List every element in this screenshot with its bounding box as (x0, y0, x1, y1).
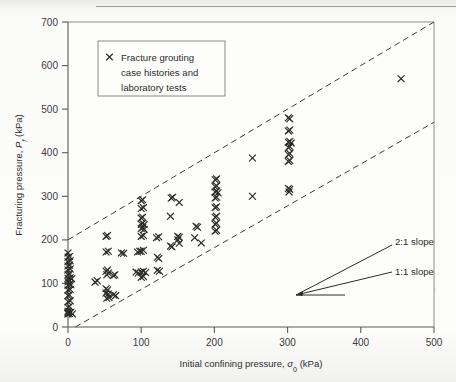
slope-1-1-label: 1:1 slope (395, 266, 434, 277)
y-axis-title: Fracturing pressure, Pf (kPa) (13, 114, 29, 235)
x-axis-title-part2: (kPa) (297, 358, 322, 369)
y-tick-label: 500 (41, 104, 58, 115)
scatter-chart: 700 600 500 400 300 200 100 0 0 100 200 … (0, 0, 456, 382)
x-tick-label: 0 (65, 337, 71, 348)
y-axis-title-part1: Fracturing pressure, (13, 148, 24, 236)
y-axis-title-part2: (kPa) (13, 114, 24, 139)
y-tick-label: 400 (41, 147, 58, 158)
legend-label-line-2: case histories and (121, 67, 198, 78)
x-tick-label: 500 (426, 337, 443, 348)
x-axis-ticks (68, 327, 434, 333)
x-tick-label: 200 (206, 337, 223, 348)
y-tick-label: 100 (41, 278, 58, 289)
y-axis-tick-labels: 700 600 500 400 300 200 100 0 (41, 17, 58, 333)
legend-label-line-1: Fracture grouting (121, 52, 194, 63)
x-tick-label: 100 (133, 337, 150, 348)
legend: Fracture grouting case histories and lab… (98, 41, 225, 96)
y-tick-label: 0 (52, 322, 58, 333)
x-tick-label: 400 (352, 337, 369, 348)
x-axis-tick-labels: 0 100 200 300 400 500 (65, 337, 443, 348)
x-axis-title-part1: Initial confining pressure, (180, 358, 288, 369)
y-tick-label: 200 (41, 234, 58, 245)
slope-2-1-label: 2:1 slope (395, 236, 434, 247)
legend-label-line-3: laboratory tests (121, 82, 187, 93)
x-axis-title: Initial confining pressure, σ0 (kPa) (180, 358, 323, 374)
y-tick-label: 700 (41, 17, 58, 28)
x-tick-label: 300 (279, 337, 296, 348)
y-tick-label: 600 (41, 60, 58, 71)
y-tick-label: 300 (41, 191, 58, 202)
